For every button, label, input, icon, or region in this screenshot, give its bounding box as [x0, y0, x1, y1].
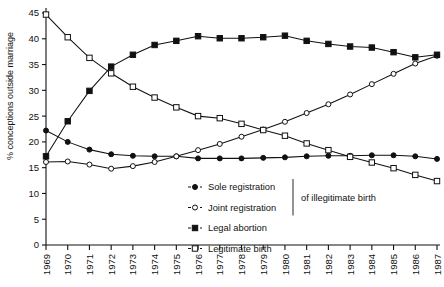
data-point [239, 36, 244, 41]
data-point [217, 115, 222, 120]
data-point [174, 38, 179, 43]
y-axis-tick-label: 35 [28, 59, 39, 70]
data-point [304, 141, 309, 146]
data-point [347, 44, 352, 49]
data-point [413, 55, 418, 60]
legend-item-joint-registration[interactable] [188, 205, 202, 210]
legend-item-legitimate-birth[interactable] [188, 246, 202, 251]
data-point [304, 154, 309, 159]
data-point [391, 153, 396, 158]
data-point [239, 156, 244, 161]
data-point [413, 172, 418, 177]
x-axis-tick-label: 1984 [366, 254, 377, 275]
legend-marker-icon [192, 225, 197, 230]
data-point [326, 153, 331, 158]
data-point [217, 36, 222, 41]
x-axis-tick-label: 1986 [410, 254, 421, 275]
data-point [152, 159, 157, 164]
legend-marker-icon [193, 205, 198, 210]
data-point [282, 119, 287, 124]
data-point [413, 154, 418, 159]
data-point [43, 154, 48, 159]
x-axis-tick-label: 1981 [301, 254, 312, 275]
chart-legend: Sole registrationJoint registrationLegal… [188, 179, 376, 254]
data-point [130, 84, 135, 89]
data-point [152, 154, 157, 159]
data-point [282, 33, 287, 38]
legend-item-label: Legitimate birth [208, 244, 272, 254]
data-point [152, 42, 157, 47]
x-axis-tick-label: 1982 [323, 254, 334, 275]
data-point [391, 49, 396, 54]
data-point [109, 152, 114, 157]
data-point [217, 141, 222, 146]
y-axis-tick-label: 5 [34, 214, 39, 225]
data-point [282, 155, 287, 160]
legend-item-label: Legal abortion [208, 223, 267, 233]
x-axis-tick-label: 1972 [106, 254, 117, 275]
data-point [174, 154, 179, 159]
x-axis-tick-label: 1974 [149, 254, 160, 275]
y-axis: 051015202530354045 [28, 7, 46, 250]
x-axis-tick-label: 1983 [345, 254, 356, 275]
x-axis-tick-label: 1970 [62, 254, 73, 275]
data-point [239, 134, 244, 139]
legend-item-label: Joint registration [208, 203, 276, 213]
data-point [43, 12, 48, 17]
y-axis-tick-label: 0 [34, 239, 39, 250]
data-point [195, 34, 200, 39]
x-axis-tick-label: 1978 [236, 254, 247, 275]
data-point [261, 127, 266, 132]
data-point [196, 156, 201, 161]
conceptions-outside-marriage-line-chart: % conceptions outside marriage 051015202… [0, 0, 444, 287]
data-point [87, 147, 92, 152]
data-point [152, 95, 157, 100]
legend-marker-icon [192, 246, 197, 251]
legend-item-label: Sole registration [208, 182, 275, 192]
data-point [87, 88, 92, 93]
y-axis-tick-label: 25 [28, 111, 39, 122]
y-axis-tick-label: 45 [28, 7, 39, 18]
data-point [65, 35, 70, 40]
data-point [347, 154, 352, 159]
data-point [44, 128, 49, 133]
x-axis-tick-label: 1973 [127, 254, 138, 275]
chart-container: % conceptions outside marriage 051015202… [0, 0, 444, 287]
data-point [261, 35, 266, 40]
y-axis-tick-label: 10 [28, 188, 39, 199]
data-point [109, 166, 114, 171]
series-layer [43, 12, 439, 184]
data-point [434, 178, 439, 183]
data-point [326, 102, 331, 107]
data-point [369, 82, 374, 87]
legend-marker-icon [193, 185, 198, 190]
data-point [369, 153, 374, 158]
data-point [435, 156, 440, 161]
data-point [196, 148, 201, 153]
data-point [108, 64, 113, 69]
series-legal-abortion [43, 33, 439, 159]
legend-item-sole-registration[interactable] [188, 185, 202, 190]
x-axis-tick-label: 1985 [388, 254, 399, 275]
data-point [326, 41, 331, 46]
data-point [326, 147, 331, 152]
data-point [391, 165, 396, 170]
y-axis-title-text: % conceptions outside marriage [5, 32, 15, 160]
x-axis-tick-label: 1979 [258, 254, 269, 275]
data-point [108, 71, 113, 76]
data-point [195, 113, 200, 118]
data-point [434, 52, 439, 57]
legend-bracket-note: of illegitimate birth [301, 193, 376, 203]
y-axis-title: % conceptions outside marriage [5, 32, 15, 160]
data-point [239, 121, 244, 126]
data-point [391, 71, 396, 76]
x-axis-tick-label: 1987 [432, 254, 443, 275]
data-point [369, 160, 374, 165]
series-joint-registration [44, 53, 440, 171]
y-axis-tick-label: 30 [28, 85, 39, 96]
data-point [65, 159, 70, 164]
data-point [174, 105, 179, 110]
y-axis-tick-label: 15 [28, 162, 39, 173]
data-point [304, 111, 309, 116]
legend-item-legal-abortion[interactable] [188, 225, 202, 230]
